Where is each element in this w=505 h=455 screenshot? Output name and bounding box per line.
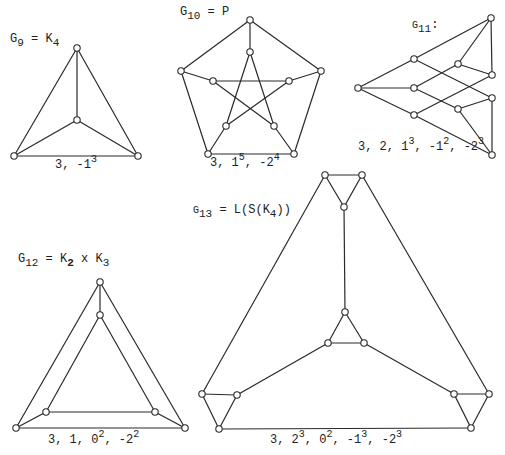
- graph-vertex: [455, 61, 461, 67]
- graph-edge: [471, 394, 489, 428]
- g9-spectrum-exp: 3: [91, 154, 97, 165]
- graph-edge: [202, 394, 237, 395]
- graph-vertex: [451, 391, 457, 397]
- graph-edge: [274, 126, 294, 154]
- graph-edge: [358, 59, 414, 88]
- g10-spectrum-part: 3, 1: [210, 156, 239, 170]
- graph-g10-petersen: [178, 17, 324, 157]
- g12-spectrum: 3, 1, 02, -22: [48, 433, 139, 447]
- g9-title-index: 9: [17, 37, 24, 49]
- graph-vertex: [322, 172, 328, 178]
- graphs-canvas: [0, 0, 505, 455]
- graph-vertex: [291, 151, 297, 157]
- graph-edge: [100, 282, 185, 428]
- g9-title: G9 = K4: [10, 32, 59, 46]
- graph-vertex: [97, 279, 103, 285]
- g9-title-sub: 4: [53, 37, 60, 49]
- graph-g9-k4: [11, 45, 141, 159]
- graph-vertex: [489, 95, 495, 101]
- graph-vertex: [178, 68, 184, 74]
- g9-title-eq: = K: [24, 32, 53, 46]
- graph-edge: [414, 88, 458, 109]
- g12-title-sub: 3: [103, 257, 110, 269]
- g11-title-index: 11: [418, 23, 431, 35]
- graph-vertex: [199, 391, 205, 397]
- graph-edge: [226, 52, 250, 126]
- g11-spectrum-part: , -1: [414, 140, 443, 154]
- graph-vertex: [13, 425, 19, 431]
- graph-edge: [454, 394, 471, 428]
- g13-title-index: 13: [199, 208, 212, 220]
- graph-vertex: [182, 425, 188, 431]
- graph-edge: [250, 52, 274, 126]
- graph-vertex: [489, 72, 495, 78]
- graph-vertex: [74, 117, 80, 123]
- graph-vertex: [455, 106, 461, 112]
- graph-vertex: [325, 340, 331, 346]
- graph-vertex: [341, 204, 347, 210]
- g13-spectrum: 3, 23, 02, -13, -23: [270, 433, 402, 447]
- graph-edge: [219, 395, 237, 429]
- g10-title-eq: = P: [200, 5, 229, 19]
- graph-edge: [294, 71, 321, 154]
- graph-edge: [14, 48, 77, 156]
- graph-edge: [77, 120, 138, 156]
- graph-vertex: [411, 56, 417, 62]
- g11-title: G11:: [412, 18, 438, 33]
- g10-title-index: 10: [187, 10, 200, 22]
- graph-edge: [202, 394, 219, 429]
- graph-edge: [16, 282, 100, 428]
- graph-vertex: [216, 426, 222, 432]
- graph-edge: [458, 98, 492, 109]
- graph-edge: [219, 428, 471, 429]
- g11-spectrum-exp: 3: [478, 136, 484, 147]
- g13-spectrum-part: , -1: [332, 433, 361, 447]
- graph-vertex: [488, 15, 494, 21]
- g13-spectrum-part: 3, 2: [270, 433, 299, 447]
- graph-vertex: [43, 409, 49, 415]
- graph-edge: [414, 59, 492, 98]
- g13-title-rest: )): [276, 203, 290, 217]
- graph-vertex: [411, 85, 417, 91]
- graph-vertex: [97, 312, 103, 318]
- graph-edge: [213, 81, 274, 126]
- g13-spectrum-part: , -2: [367, 433, 396, 447]
- graph-edge: [14, 120, 77, 156]
- graph-vertex: [247, 17, 253, 23]
- graph-edge: [458, 64, 492, 75]
- graph-edge: [181, 71, 208, 154]
- graph-edge: [289, 71, 321, 81]
- g12-spectrum-part: 3, 1, 0: [48, 433, 98, 447]
- graph-vertex: [318, 68, 324, 74]
- graph-g11: [355, 15, 495, 158]
- graph-vertex: [135, 153, 141, 159]
- graph-edge: [364, 343, 454, 394]
- g11-title-eq: :: [431, 18, 438, 32]
- g10-title: G10 = P: [180, 5, 229, 19]
- graph-vertex: [486, 391, 492, 397]
- g10-spectrum-exp: 4: [274, 152, 280, 163]
- graph-edge: [414, 64, 458, 88]
- graph-vertex: [152, 409, 158, 415]
- graph-vertex: [210, 78, 216, 84]
- graph-vertex: [271, 123, 277, 129]
- graph-edge: [237, 343, 328, 395]
- g13-spectrum-part: , 0: [305, 433, 327, 447]
- g10-spectrum-part: , -2: [245, 156, 274, 170]
- g9-spectrum: 3, -13: [55, 158, 97, 172]
- graph-edge: [345, 312, 364, 343]
- graph-vertex: [247, 49, 253, 55]
- graph-vertex: [342, 309, 348, 315]
- graph-g12-prism: [13, 279, 188, 431]
- g11-spectrum-part: 3, 2, 1: [358, 140, 408, 154]
- graph-vertex: [223, 123, 229, 129]
- graph-vertex: [361, 340, 367, 346]
- graph-edge: [77, 48, 138, 156]
- graph-vertex: [286, 78, 292, 84]
- g13-spectrum-exp: 3: [396, 429, 402, 440]
- graph-edge: [208, 126, 226, 154]
- graph-edge: [250, 20, 321, 71]
- g11-spectrum-part: , -2: [449, 140, 478, 154]
- g11-spectrum: 3, 2, 13, -12, -23: [358, 140, 484, 154]
- graph-vertex: [359, 172, 365, 178]
